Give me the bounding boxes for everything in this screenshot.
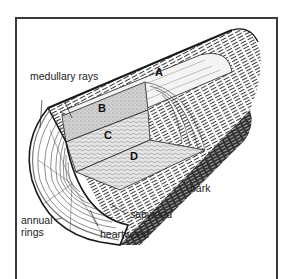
letter-c: C bbox=[104, 129, 112, 141]
letter-a: A bbox=[155, 66, 163, 78]
label-heartwood: heartwood bbox=[100, 229, 149, 240]
label-bark: bark bbox=[190, 183, 210, 194]
letter-b: B bbox=[98, 102, 106, 114]
label-annual: annual bbox=[21, 215, 53, 226]
label-medullary-rays: medullary rays bbox=[30, 71, 98, 82]
letter-d: D bbox=[130, 150, 138, 162]
label-rings: rings bbox=[21, 227, 44, 238]
label-sapwood: sapwood bbox=[130, 209, 172, 220]
